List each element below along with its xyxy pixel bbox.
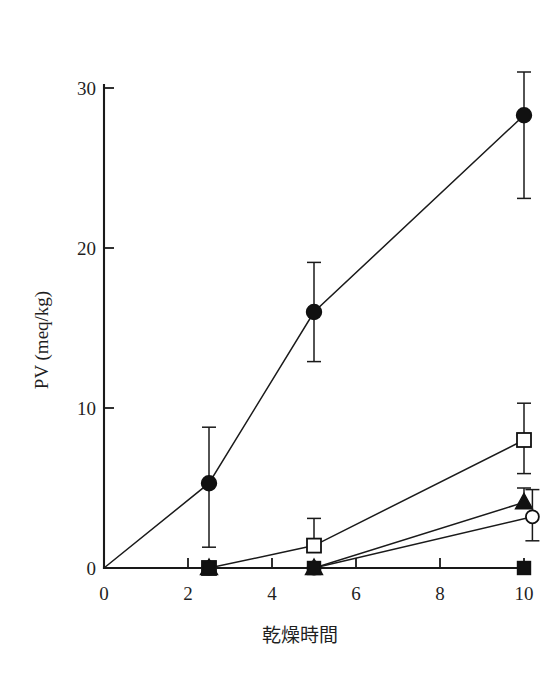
- marker-filled-triangle-3: [516, 493, 533, 509]
- series-layer: [104, 72, 539, 575]
- chart-canvas: 0 10 20 30 0 2 4 6 8 10 PV (meq/kg) 乾燥時間: [0, 0, 550, 675]
- marker-filled-circle-2: [307, 305, 322, 320]
- x-tick-labels: 0 2 4 6 8 10: [99, 583, 533, 604]
- series-filled-circle: [104, 72, 532, 568]
- y-tick-labels: 0 10 20 30: [77, 78, 96, 579]
- x-tick-label-2: 2: [183, 583, 193, 604]
- x-tick-label-6: 6: [351, 583, 361, 604]
- series-open-square: [104, 403, 531, 575]
- y-axis-title: PV (meq/kg): [31, 291, 53, 389]
- x-tick-label-10: 10: [515, 583, 534, 604]
- marker-open-circle-3: [526, 510, 539, 523]
- y-ticks-group: [104, 88, 114, 568]
- series-filled-square: [104, 562, 531, 575]
- marker-filled-circle-3: [517, 108, 532, 123]
- x-tick-label-8: 8: [435, 583, 445, 604]
- y-tick-label-20: 20: [77, 238, 96, 259]
- figure-container: 0 10 20 30 0 2 4 6 8 10 PV (meq/kg) 乾燥時間: [0, 0, 550, 675]
- y-tick-label-30: 30: [77, 78, 96, 99]
- marker-filled-square-1: [203, 562, 216, 575]
- x-axis-title: 乾燥時間: [262, 624, 338, 646]
- marker-filled-circle-1: [202, 476, 217, 491]
- y-tick-label-0: 0: [87, 558, 97, 579]
- marker-filled-square-3: [518, 562, 531, 575]
- x-tick-label-0: 0: [99, 583, 109, 604]
- y-tick-label-10: 10: [77, 398, 96, 419]
- error-bar-filled-circle-3: [517, 72, 531, 198]
- marker-open-square-3: [517, 433, 531, 447]
- x-tick-label-4: 4: [267, 583, 277, 604]
- series-open-circle: [104, 490, 539, 575]
- marker-filled-square-2: [308, 562, 321, 575]
- marker-open-square-2: [307, 539, 321, 553]
